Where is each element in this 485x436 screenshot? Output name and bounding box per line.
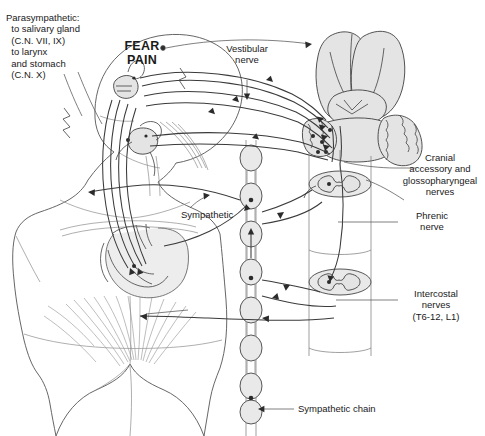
spinal-cord-cross-section-lower <box>309 269 371 353</box>
phrenic-nerve-label: Phrenic nerve <box>400 210 464 233</box>
sympathetic-chain-label: Sympathetic chain <box>298 403 376 414</box>
sympathetic-label: Sympathetic <box>181 209 233 220</box>
intercostal-nerves-label: Intercostal nerves (T6-12, L1) <box>398 288 474 322</box>
cranial-accessory-glossopharyngeal-label: Cranial accessory and glossopharyngeal n… <box>396 152 484 198</box>
brain-cerebral-hemispheres <box>316 31 405 126</box>
stomach <box>60 221 198 298</box>
vestibular-nerve-label: Vestibular nerve <box>207 43 287 66</box>
parasympathetic-label: Parasympathetic: to salivary gland (C.N.… <box>6 12 80 80</box>
fear-pain-label: FEAR PAIN <box>118 39 166 67</box>
abdominal-muscles <box>44 296 196 366</box>
anatomical-diagram: Parasympathetic: to salivary gland (C.N.… <box>0 0 485 436</box>
spinal-cord-cross-section-upper <box>304 171 371 255</box>
sympathetic-chain-ganglia <box>240 140 262 436</box>
